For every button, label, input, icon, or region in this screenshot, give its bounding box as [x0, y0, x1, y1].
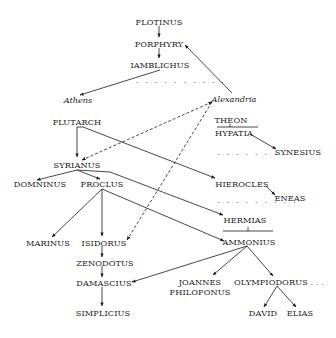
- node-joannes: JOANNES: [178, 277, 222, 287]
- edge-proclus-ammonius: [102, 189, 224, 241]
- node-hypatia: HYPATIA: [215, 128, 253, 138]
- node-hermias: HERMIAS: [223, 215, 266, 225]
- node-zenodotus: ZENODOTUS: [76, 258, 134, 268]
- edge-hypatia-synesius: [250, 134, 276, 149]
- dashed-edges: [82, 102, 212, 240]
- node-ammonius: AMMONIUS: [221, 237, 275, 247]
- node-syrianus: SYRIANUS: [54, 160, 101, 170]
- node-plutarch: PLUTARCH: [53, 117, 102, 127]
- node-theon: THEON: [215, 115, 248, 125]
- node-porphyry: PORPHYRY: [135, 39, 184, 49]
- edge-plutarch-hierocles: [77, 127, 215, 178]
- diagram-svg: . . . . . . . . . . . . . . . . . . . . …: [0, 0, 336, 338]
- ellipsis-after-iamblichus: . . . . . . . . . .: [136, 76, 226, 85]
- lineage-diagram: . . . . . . . . . . . . . . . . . . . . …: [0, 0, 336, 338]
- edge-alexandria-porphyry: [185, 45, 232, 93]
- node-domninus: DOMNINUS: [14, 179, 67, 189]
- edge-olympiodorus-elias: [277, 286, 296, 307]
- nodes: PLOTINUS PORPHYRY IAMBLICHUS Athens Alex…: [14, 17, 324, 318]
- node-proclus: PROCLUS: [81, 179, 124, 189]
- node-isidorus: ISIDORUS: [82, 238, 127, 248]
- edge-alexandria-isidorus: [127, 102, 212, 240]
- edge-olympiodorus-david: [264, 286, 277, 307]
- node-david: DAVID: [249, 308, 278, 318]
- node-elias: ELIAS: [287, 308, 314, 318]
- edge-ammonius-olympiodorus: [247, 246, 273, 276]
- node-synesius: SYNESIUS: [275, 147, 322, 157]
- node-olympiodorus: OLYMPIODORUS . . .: [234, 277, 324, 287]
- node-alexandria: Alexandria: [211, 94, 257, 104]
- node-marinus: MARINUS: [26, 238, 70, 248]
- node-plotinus: PLOTINUS: [136, 17, 183, 27]
- node-hierocles: HIEROCLES: [215, 179, 269, 189]
- edge-proclus-marinus: [52, 189, 102, 237]
- node-eneas: ENEAS: [274, 193, 305, 203]
- node-iamblichus: IAMBLICHUS: [130, 60, 189, 70]
- node-philoponus: PHILOPONUS: [170, 287, 231, 297]
- node-simplicius: SIMPLICIUS: [76, 308, 131, 318]
- edge-ammonius-joannes: [213, 246, 247, 275]
- node-athens: Athens: [63, 95, 93, 105]
- node-damascius: DAMASCIUS: [76, 278, 132, 288]
